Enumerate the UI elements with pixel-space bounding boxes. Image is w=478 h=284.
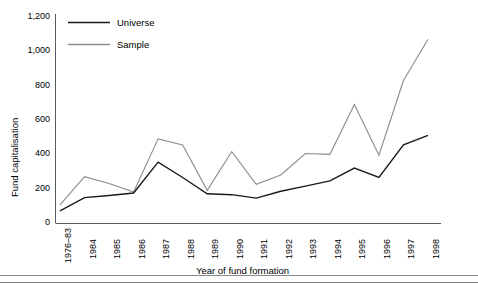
x-tick-label: 1988 bbox=[187, 239, 196, 259]
legend-label-sample: Sample bbox=[117, 40, 149, 50]
bottom-rule-2 bbox=[0, 282, 478, 283]
x-tick-label: 1997 bbox=[407, 239, 416, 259]
x-tick-label: 1995 bbox=[358, 239, 367, 259]
y-tick-label: 800 bbox=[8, 81, 50, 90]
y-tick-label: 200 bbox=[8, 184, 50, 193]
x-tick-label: 1985 bbox=[113, 239, 122, 259]
x-tick-label: 1989 bbox=[211, 239, 220, 259]
x-tick-label: 1976–83 bbox=[64, 228, 73, 263]
bottom-rule-1 bbox=[0, 275, 478, 276]
x-tick-label: 1996 bbox=[383, 239, 392, 259]
x-tick-label: 1993 bbox=[309, 239, 318, 259]
x-tick-label: 1991 bbox=[260, 239, 269, 259]
legend-label-universe: Universe bbox=[117, 18, 155, 28]
x-tick-label: 1998 bbox=[432, 239, 441, 259]
series-line-sample bbox=[60, 39, 428, 205]
x-tick-label: 1994 bbox=[334, 239, 343, 259]
y-tick-label: 0 bbox=[8, 218, 50, 227]
y-tick-label: 1,000 bbox=[8, 46, 50, 55]
series-line-universe bbox=[60, 135, 428, 211]
x-tick-label: 1990 bbox=[236, 239, 245, 259]
x-tick-label: 1992 bbox=[285, 239, 294, 259]
x-tick-label: 1986 bbox=[138, 239, 147, 259]
chart-figure: Universe Sample Fund capitalisation Year… bbox=[0, 0, 478, 284]
y-tick-label: 1,200 bbox=[8, 12, 50, 21]
y-tick-label: 400 bbox=[8, 149, 50, 158]
y-tick-label: 600 bbox=[8, 115, 50, 124]
x-tick-label: 1987 bbox=[162, 239, 171, 259]
x-tick-label: 1984 bbox=[89, 239, 98, 259]
